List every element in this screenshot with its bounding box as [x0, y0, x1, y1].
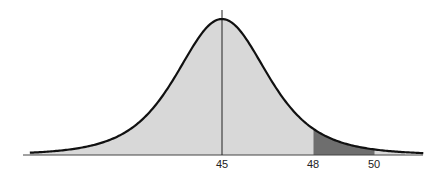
tick-label-50: 50	[368, 158, 380, 170]
density-chart: 45 48 50	[0, 0, 448, 179]
tick-label-48: 48	[307, 158, 319, 170]
shaded-area-light	[30, 19, 405, 155]
tick-label-45: 45	[216, 158, 228, 170]
shaded-area-48-to-50	[314, 129, 375, 155]
